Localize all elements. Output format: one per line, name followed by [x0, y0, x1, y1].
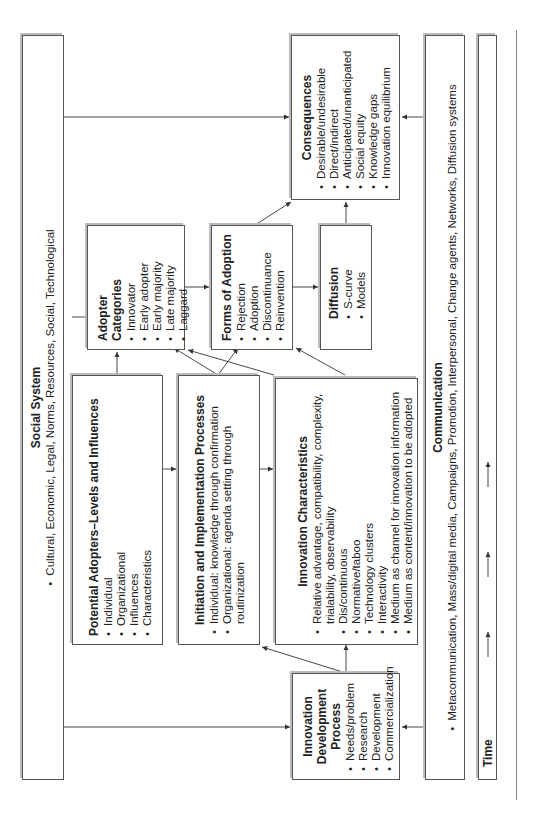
list-item: Research	[357, 682, 370, 771]
list-item: Late majority	[164, 234, 177, 341]
diffusion-title: Diffusion	[327, 234, 341, 319]
innovation-characteristics-box: Innovation Characteristics Relative adva…	[275, 378, 418, 645]
list-item: Commercialization	[383, 682, 396, 771]
list-item: Needs/problem	[344, 682, 357, 771]
forms-of-adoption-box: Forms of Adoption Rejection Adoption Dis…	[211, 225, 293, 350]
communication-title: Communication	[431, 42, 445, 773]
adopter-categories-title: Adopter Categories	[96, 234, 124, 341]
list-item: Desirable/undesirable	[315, 46, 328, 189]
social-system-item: Cultural, Economic, Legal, Norms, Resour…	[44, 229, 57, 585]
list-item: Medium as channel for innovation informa…	[389, 389, 402, 634]
list-item: Early majority	[151, 234, 164, 341]
list-item: Social equity	[354, 46, 367, 189]
social-system-box: Social System Cultural, Economic, Legal,…	[22, 35, 64, 780]
potential-adopters-title: Potential Adopters–Levels and Influences	[87, 384, 101, 636]
list-item: Organizational: agenda setting through r…	[221, 386, 247, 634]
consequences-title: Consequences	[300, 46, 314, 189]
list-item: Laggard	[177, 234, 190, 341]
list-item: S-curve	[342, 234, 355, 319]
communication-item: Metacommunication, Mass/digital media, C…	[446, 84, 459, 730]
diagram-rotated-canvas: Social System Cultural, Economic, Legal,…	[0, 0, 540, 817]
list-item: Reinvention	[274, 234, 287, 341]
adopter-categories-box: Adopter Categories Innovator Early adopt…	[87, 225, 185, 350]
consequences-box: Consequences Desirable/undesirable Direc…	[291, 35, 400, 200]
list-item: Rejection	[235, 234, 248, 341]
list-item: Anticipated/unanticipated	[341, 46, 354, 189]
innovation-development-title: Innovation Development Process	[301, 682, 343, 771]
list-item: Innovator	[125, 234, 138, 341]
list-item: Development	[370, 682, 383, 771]
list-item: Organizational	[115, 384, 128, 636]
list-item: Characteristics	[141, 384, 154, 636]
list-item: Medium as content/innovation to be adopt…	[402, 389, 415, 634]
list-item: Adoption	[248, 234, 261, 341]
list-item: Direct/indirect	[328, 46, 341, 189]
innovation-development-box: Innovation Development Process Needs/pro…	[292, 673, 400, 780]
list-item: Relative advantage, compatibility, compl…	[311, 389, 337, 634]
list-item: Influences	[128, 384, 141, 636]
list-item: Innovation equilibrium	[380, 46, 393, 189]
diffusion-box: Diffusion S-curve Models	[320, 225, 372, 350]
social-system-title: Social System	[29, 42, 43, 773]
time-box: Time	[478, 35, 497, 780]
list-item: Interactivity	[376, 389, 389, 634]
initiation-title: Initiation and Implementation Processes	[193, 386, 207, 634]
initiation-implementation-box: Initiation and Implementation Processes …	[178, 375, 260, 645]
list-item: Discontinuance	[261, 234, 274, 341]
list-item: Early adopter	[138, 234, 151, 341]
list-item: Models	[355, 234, 368, 319]
list-item: Individual	[102, 384, 115, 636]
innovation-characteristics-title: Innovation Characteristics	[296, 389, 310, 634]
time-title: Time	[481, 36, 495, 767]
list-item: Dis/continuous	[337, 389, 350, 634]
communication-box: Communication Metacommunication, Mass/di…	[425, 35, 465, 780]
list-item: Technology clusters	[363, 389, 376, 634]
list-item: Individual: knowledge through confirmati…	[208, 386, 221, 634]
forms-of-adoption-title: Forms of Adoption	[220, 234, 234, 341]
list-item: Normative/taboo	[350, 389, 363, 634]
list-item: Knowledge gaps	[367, 46, 380, 189]
potential-adopters-box: Potential Adopters–Levels and Influences…	[72, 375, 163, 645]
